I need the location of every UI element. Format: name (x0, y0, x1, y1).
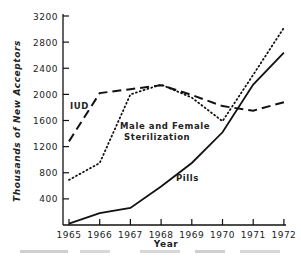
line-chart: 400800120016002000240028003200 196519661… (0, 0, 301, 257)
x-tick-label: 1969 (179, 230, 204, 240)
y-tick-label: 2000 (33, 90, 58, 100)
y-tick-label: 2400 (33, 64, 58, 74)
label-iud: IUD (70, 101, 89, 111)
y-tick-label: 800 (39, 168, 58, 178)
x-tick-label: 1971 (241, 230, 266, 240)
label-pills: Pills (176, 173, 199, 183)
y-tick-label: 400 (39, 194, 58, 204)
x-tick-label: 1967 (118, 230, 143, 240)
x-tick-label: 1972 (271, 230, 296, 240)
x-tick-label: 1965 (57, 230, 82, 240)
x-tick-label: 1970 (210, 230, 235, 240)
label-sterilization-1: Male and Female (120, 121, 210, 131)
y-tick-label: 2800 (33, 38, 58, 48)
series-sterilization-line (69, 28, 284, 180)
x-axis-title: Year (153, 239, 179, 249)
x-axis-ticks: 19651966196719681969197019711972 (57, 219, 297, 240)
y-tick-label: 3200 (33, 12, 58, 22)
y-axis-title: Thousands of New Acceptors (12, 40, 22, 202)
x-tick-label: 1966 (87, 230, 112, 240)
cropped-caption (10, 250, 290, 254)
y-tick-label: 1600 (33, 116, 58, 126)
y-tick-label: 1200 (33, 142, 58, 152)
label-sterilization-2: Sterilization (124, 132, 190, 142)
